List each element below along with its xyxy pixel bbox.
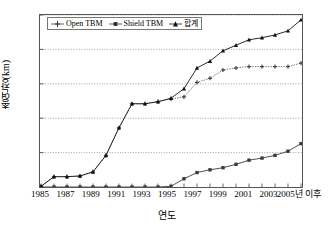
chart-legend: Open TBM Shield TBM 합계 [47,17,202,30]
legend-marker-triangle-icon [169,20,182,28]
legend-marker-square-icon [109,20,122,28]
legend-label-total: 합계 [184,19,198,28]
legend-label-open-tbm: Open TBM [66,19,103,28]
x-tick-label: 1997 [183,190,201,199]
x-tick-label: 2003 [260,190,278,199]
x-tick-label: 1999 [209,190,227,199]
x-tick-label: 1987 [56,190,74,199]
y-axis-title: 총연장(km) [0,60,13,109]
x-axis-title: 연도 [0,207,334,222]
plot-svg [40,15,302,187]
x-tick-label: 1995 [158,190,176,199]
legend-label-shield-tbm: Shield TBM [124,19,164,28]
x-tick-label: 2001 [234,190,252,199]
plot-area [39,14,303,188]
x-tick-label: 1991 [107,190,125,199]
x-tick-label: 1989 [82,190,100,199]
x-tick-label: 1985 [31,190,49,199]
legend-marker-plus-icon [51,20,64,28]
legend-entry-shield-tbm[interactable]: Shield TBM [109,19,164,28]
legend-entry-open-tbm[interactable]: Open TBM [51,19,103,28]
chart-container: 총연장(km) 250 200 150 100 50 0 1985 1987 1… [0,0,334,229]
x-tick-label: 1993 [133,190,151,199]
legend-entry-total[interactable]: 합계 [169,19,198,28]
x-tick-label: 2005년 이후 [277,190,321,199]
